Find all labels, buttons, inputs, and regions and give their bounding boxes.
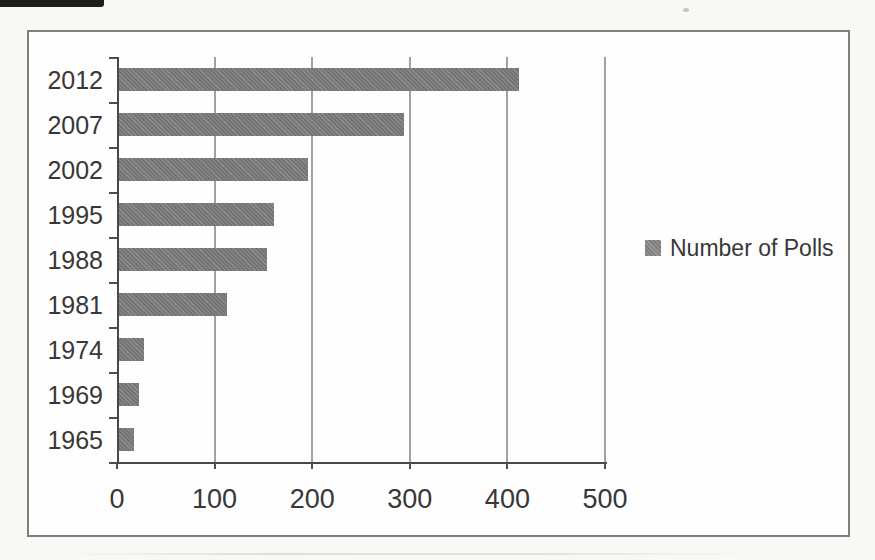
bar-2012 bbox=[119, 68, 519, 91]
y-axis-tick bbox=[109, 102, 117, 104]
category-label: 1974 bbox=[29, 335, 103, 365]
x-axis-tick bbox=[214, 462, 216, 469]
x-tick-label: 300 bbox=[355, 484, 465, 514]
x-tick-label: 500 bbox=[550, 484, 660, 514]
category-label: 1965 bbox=[29, 425, 103, 455]
bar-1965 bbox=[119, 428, 134, 451]
y-axis-tick bbox=[109, 372, 117, 374]
x-axis-tick bbox=[604, 462, 606, 469]
category-label: 1995 bbox=[29, 200, 103, 230]
scan-artifact-mark bbox=[0, 0, 104, 7]
bar-2007 bbox=[119, 113, 404, 136]
x-tick-label: 400 bbox=[452, 484, 562, 514]
bar-1988 bbox=[119, 248, 267, 271]
x-axis-tick bbox=[311, 462, 313, 469]
category-label: 2012 bbox=[29, 65, 103, 95]
y-axis-tick bbox=[109, 417, 117, 419]
legend: Number of Polls bbox=[645, 235, 834, 261]
bar-2002 bbox=[119, 158, 308, 181]
x-tick-label: 100 bbox=[160, 484, 270, 514]
legend-marker-icon bbox=[645, 240, 661, 256]
legend-label: Number of Polls bbox=[670, 235, 834, 262]
y-axis-tick bbox=[109, 57, 117, 59]
x-tick-label: 200 bbox=[257, 484, 367, 514]
scan-artifact-streak bbox=[60, 553, 760, 555]
gridline-500 bbox=[604, 57, 606, 462]
x-axis-tick bbox=[506, 462, 508, 469]
x-axis-tick bbox=[409, 462, 411, 469]
y-axis-tick bbox=[109, 147, 117, 149]
category-label: 1969 bbox=[29, 380, 103, 410]
plot-area: 0100200300400500201220072002199519881981… bbox=[29, 32, 848, 535]
y-axis-tick bbox=[109, 282, 117, 284]
bar-1981 bbox=[119, 293, 227, 316]
bar-chart-frame: 0100200300400500201220072002199519881981… bbox=[27, 30, 850, 537]
y-axis-tick bbox=[109, 192, 117, 194]
gridline-400 bbox=[506, 57, 508, 462]
category-label: 2007 bbox=[29, 110, 103, 140]
y-axis-tick bbox=[109, 327, 117, 329]
gridline-300 bbox=[409, 57, 411, 462]
bar-1995 bbox=[119, 203, 274, 226]
category-label: 1988 bbox=[29, 245, 103, 275]
category-label: 2002 bbox=[29, 155, 103, 185]
scan-artifact-speck bbox=[683, 8, 689, 12]
y-axis-tick bbox=[109, 237, 117, 239]
scanned-page: 0100200300400500201220072002199519881981… bbox=[0, 0, 875, 560]
x-tick-label: 0 bbox=[62, 484, 172, 514]
bar-1969 bbox=[119, 383, 139, 406]
x-axis-line bbox=[117, 462, 607, 464]
bar-1974 bbox=[119, 338, 144, 361]
category-label: 1981 bbox=[29, 290, 103, 320]
x-axis-tick bbox=[116, 462, 118, 469]
